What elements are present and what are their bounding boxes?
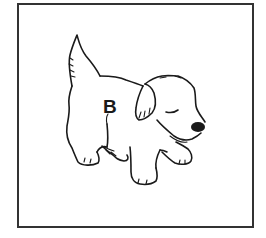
front-paw-right: [160, 142, 192, 164]
front-leg: [130, 147, 160, 184]
tail: [69, 35, 100, 86]
body: [67, 76, 143, 165]
card-letter-label: B: [103, 97, 117, 116]
ear: [136, 84, 156, 120]
hind-leg: [102, 146, 128, 161]
nose: [191, 122, 205, 132]
closed-eye: [166, 110, 178, 113]
puppy-illustration: [0, 0, 266, 238]
